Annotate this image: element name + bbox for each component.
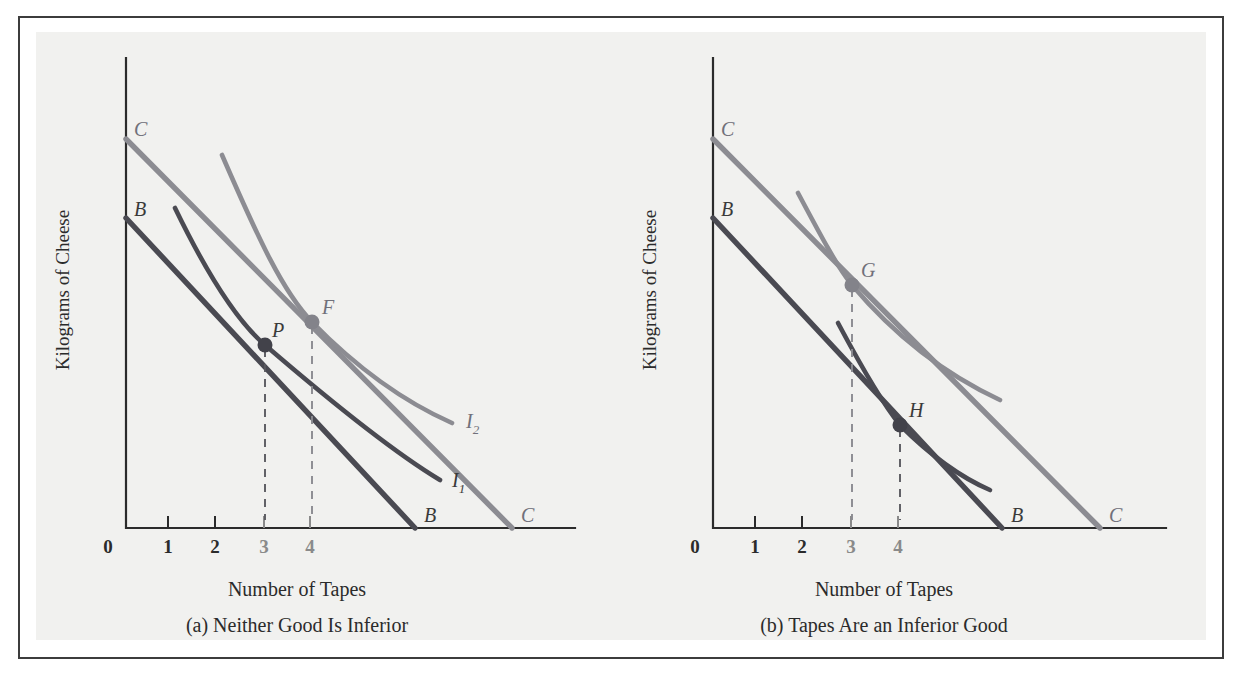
panel-a-ticklabel-2: 2 [210, 536, 220, 557]
panel-a-label-C-intercept: C [134, 118, 148, 140]
panel-b-caption: (b) Tapes Are an Inferior Good [760, 614, 1008, 637]
panel-b-label-C-intercept: C [721, 118, 735, 140]
panel-a-point-F [305, 315, 320, 330]
panel-a-origin-label: 0 [103, 536, 113, 557]
panel-b-origin-label: 0 [690, 536, 700, 557]
panel-a-ticklabel-1: 1 [163, 536, 173, 557]
panel-b-xlabel: Number of Tapes [815, 578, 953, 601]
panel-b-curve-upper [798, 193, 1000, 400]
panel-a-label-I1: I1 [451, 469, 465, 496]
panel-b-label-H: H [908, 399, 925, 421]
panel-a-label-B-intercept: B [134, 198, 146, 220]
panel-b: C B B C G H 0 1 2 3 4 Number of Tapes (b… [639, 58, 1166, 637]
figure-svg: C B B C P F I2 I1 0 1 2 3 4 Number of Ta… [0, 0, 1246, 692]
panel-a-point-P [258, 338, 273, 353]
panel-b-label-G: G [861, 259, 876, 281]
panel-a-ticklabel-3: 3 [259, 536, 269, 557]
panel-a: C B B C P F I2 I1 0 1 2 3 4 Number of Ta… [52, 58, 575, 637]
panel-b-label-C-endpoint: C [1109, 504, 1123, 526]
panel-b-ticklabel-1: 1 [750, 536, 760, 557]
panel-b-ticklabel-2: 2 [797, 536, 807, 557]
panel-a-label-P: P [271, 319, 284, 341]
panel-b-budget-line-B [713, 218, 1002, 528]
figure-root: C B B C P F I2 I1 0 1 2 3 4 Number of Ta… [0, 0, 1246, 692]
panel-a-ylabel: Kilograms of Cheese [52, 210, 73, 370]
panel-a-xlabel: Number of Tapes [228, 578, 366, 601]
panel-a-curve-I1 [175, 208, 440, 480]
panel-a-caption: (a) Neither Good Is Inferior [186, 614, 408, 637]
panel-a-label-B-endpoint: B [424, 504, 436, 526]
panel-b-label-B-intercept: B [721, 198, 733, 220]
panel-a-label-C-endpoint: C [521, 504, 535, 526]
panel-b-point-G [845, 278, 860, 293]
panel-b-ticklabel-4: 4 [893, 536, 903, 557]
panel-b-label-B-endpoint: B [1011, 504, 1023, 526]
panel-b-point-H [893, 418, 908, 433]
panel-a-curve-I2 [222, 155, 452, 423]
panel-a-label-F: F [321, 296, 335, 318]
panel-a-ticklabel-4: 4 [305, 536, 315, 557]
panel-b-ylabel: Kilograms of Cheese [639, 210, 660, 370]
panel-b-budget-line-C [713, 139, 1100, 528]
panel-b-ticklabel-3: 3 [846, 536, 856, 557]
panel-a-label-I2: I2 [465, 410, 480, 437]
